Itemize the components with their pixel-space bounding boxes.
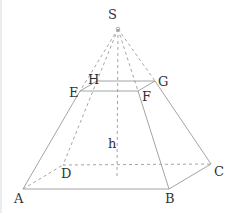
label-C: C: [214, 164, 224, 179]
height-line: [117, 29, 118, 178]
edge-EA: [23, 91, 80, 189]
label-H: H: [88, 72, 99, 87]
label-F: F: [142, 89, 151, 104]
label-S: S: [108, 7, 117, 22]
label-B: B: [165, 191, 175, 206]
label-A: A: [13, 191, 24, 206]
label-G: G: [158, 74, 168, 89]
label-D: D: [61, 166, 71, 181]
frustum-diagram: S H G E F h D C A B: [0, 0, 234, 213]
label-E: E: [69, 85, 79, 100]
hidden-edges: [23, 81, 211, 189]
edge-FB: [138, 91, 169, 189]
edge-GC: [155, 81, 211, 164]
diagram-frame: S H G E F h D C A B: [0, 0, 234, 213]
label-h: h: [108, 136, 117, 151]
edge-BC: [169, 164, 211, 189]
